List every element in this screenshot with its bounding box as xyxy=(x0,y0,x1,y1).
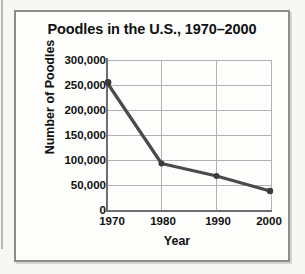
x-tick-2000: 2000 xyxy=(256,215,282,227)
x-tick-1980: 1980 xyxy=(150,215,176,227)
x-tick-1970: 1970 xyxy=(99,215,125,227)
x-tick-1990: 1990 xyxy=(205,215,231,227)
page-edge-rule xyxy=(1,0,3,249)
x-axis-tick-labels: 1970 1980 1990 2000 xyxy=(16,12,292,264)
chart-panel: Poodles in the U.S., 1970–2000 Number of… xyxy=(14,10,290,262)
plot-area: Number of Poodles 300,000 250,000 200,00… xyxy=(16,12,292,264)
x-axis-title: Year xyxy=(92,234,262,248)
